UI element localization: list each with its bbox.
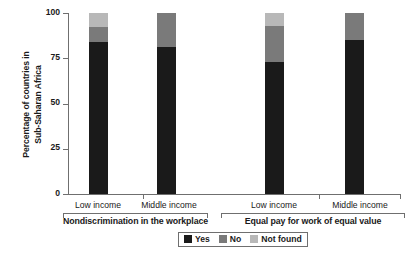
y-axis-title: Percentage of countries in Sub-Saharan A… [21, 20, 44, 190]
y-tick-25: 25 [63, 149, 68, 150]
plot-area: 0 25 50 75 100 Low income Middle income … [68, 13, 400, 194]
legend-item-yes[interactable]: Yes [184, 234, 210, 244]
y-axis-line [68, 13, 69, 195]
bar-segment-not-found [89, 13, 108, 27]
y-tick-100: 100 [63, 13, 68, 14]
group-label-nondiscrimination: Nondiscrimination in the workplace [58, 216, 213, 226]
bar-segment-no [89, 27, 108, 41]
legend-label-yes: Yes [195, 234, 210, 244]
x-label-group-0-low-income: Low income [64, 200, 132, 210]
x-label-group-1-low-income: Low income [240, 200, 308, 210]
bar-segment-yes [89, 42, 108, 194]
bar-segment-yes [345, 40, 364, 194]
legend-swatch-no [219, 235, 227, 243]
stacked-bar-chart: Percentage of countries in Sub-Saharan A… [0, 0, 412, 255]
bar-group-1-low-income [265, 13, 284, 194]
x-tick-2 [400, 194, 401, 199]
y-tick-label-100: 100 [46, 7, 60, 17]
legend-item-not-found[interactable]: Not found [250, 234, 302, 244]
chart-legend: Yes No Not found [178, 232, 308, 247]
bar-segment-yes [157, 47, 176, 194]
y-tick-label-25: 25 [50, 142, 60, 152]
bar-group-1-middle-income [345, 13, 364, 194]
group-bracket-1 [221, 213, 405, 214]
y-tick-label-75: 75 [50, 52, 60, 62]
y-tick-label-50: 50 [50, 97, 60, 107]
x-tick-1 [319, 194, 320, 199]
bar-segment-no [157, 13, 176, 47]
bar-group-0-low-income [89, 13, 108, 194]
y-tick-0: 0 [63, 194, 68, 195]
x-axis-line [68, 194, 400, 195]
legend-swatch-not-found [250, 235, 258, 243]
x-tick-0 [143, 194, 144, 199]
bar-segment-not-found [265, 13, 284, 26]
x-label-group-1-middle-income: Middle income [318, 200, 402, 210]
legend-label-no: No [230, 234, 241, 244]
legend-swatch-yes [184, 235, 192, 243]
x-label-group-0-middle-income: Middle income [132, 200, 206, 210]
legend-label-not-found: Not found [261, 234, 302, 244]
group-label-equal-pay: Equal pay for work of equal value [218, 216, 408, 226]
bar-segment-no [265, 26, 284, 62]
group-bracket-0 [63, 213, 208, 214]
legend-item-no[interactable]: No [219, 234, 241, 244]
bar-segment-yes [265, 62, 284, 194]
y-tick-75: 75 [63, 58, 68, 59]
y-axis-title-line-2: Sub-Saharan Africa [32, 20, 44, 190]
y-tick-label-0: 0 [55, 188, 60, 198]
y-axis-title-line-1: Percentage of countries in [21, 20, 33, 190]
bar-segment-no [345, 13, 364, 40]
bar-group-0-middle-income [157, 13, 176, 194]
y-tick-50: 50 [63, 104, 68, 105]
